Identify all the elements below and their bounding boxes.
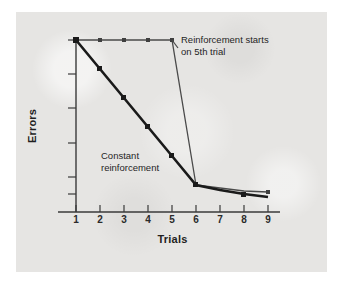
x-axis-title-text: Trials [158,233,188,245]
x-tick-label-8: 8 [236,214,252,226]
x-tick-label-5: 5 [164,214,180,226]
annotation-reinforcement-starts: Reinforcement starts on 5th trial [181,34,269,57]
x-axis-ticks [76,205,268,212]
x-tick-label-1: 1 [68,214,84,226]
y-axis-ticks [68,40,76,194]
x-tick-label-4: 4 [140,214,156,226]
x-tick-label-3: 3 [116,214,132,226]
x-axis-title: Trials [0,233,345,245]
x-tick-label-7: 7 [212,214,228,226]
series-markers-constant-reinforcement [73,37,246,197]
x-tick-label-2: 2 [92,214,108,226]
x-tick-label-6: 6 [188,214,204,226]
annotation-constant-reinforcement: Constant reinforcement [101,150,159,173]
x-tick-label-9: 9 [260,214,276,226]
series-line-constant-reinforcement [76,40,268,197]
y-axis-title: Errors [26,96,38,156]
figure-container: 1 2 3 4 5 6 7 8 9 Trials Errors Reinforc… [0,0,345,287]
